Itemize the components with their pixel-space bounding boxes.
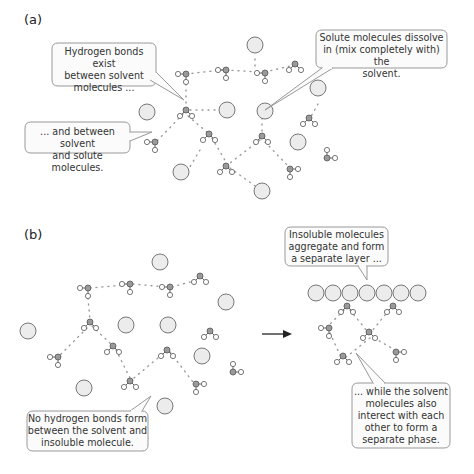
callout-line: aggregate and form bbox=[285, 241, 388, 253]
right-arrow-icon bbox=[262, 330, 292, 338]
callout-line: molecules ... bbox=[52, 82, 156, 94]
callout-line: other to form a bbox=[352, 422, 450, 434]
separated-solvent-hbonds bbox=[330, 310, 395, 358]
callout-line: insoluble molecule. bbox=[27, 437, 148, 449]
callout-solvent-phase: ... while the solvent molecules also int… bbox=[352, 386, 450, 446]
callout-no-hbond: No hydrogen bonds form between the solve… bbox=[27, 413, 148, 449]
callout-solute-dissolve: Solute molecules dissolve in (mix comple… bbox=[316, 32, 447, 80]
separated-solvent-molecules bbox=[318, 303, 406, 365]
callout-line: interect with each bbox=[352, 410, 450, 422]
callout-line: Solute molecules dissolve bbox=[316, 32, 447, 44]
callout-line: Hydrogen bonds exist bbox=[52, 46, 156, 70]
callout-hbond-solvent: Hydrogen bonds exist between solvent mol… bbox=[52, 46, 156, 94]
panel-b-label: (b) bbox=[24, 227, 42, 242]
callout-line: separate phase. bbox=[352, 434, 450, 446]
callout-line: a separate layer ... bbox=[285, 253, 388, 265]
callout-line: Insoluble molecules bbox=[285, 229, 388, 241]
panel-b-solvent-molecules bbox=[47, 273, 243, 395]
callout-line: ... while the solvent bbox=[352, 386, 450, 398]
callout-line: molecules also bbox=[352, 398, 450, 410]
callout-line: and solute molecules. bbox=[25, 150, 130, 174]
callout-insoluble-aggregate: Insoluble molecules aggregate and form a… bbox=[285, 229, 388, 265]
callout-line: No hydrogen bonds form bbox=[27, 413, 148, 425]
callout-line: between the solvent and bbox=[27, 425, 148, 437]
callout-line: ... and between solvent bbox=[25, 126, 130, 150]
callout-line: in (mix completely with) the bbox=[316, 44, 447, 68]
callout-hbond-solvent-solute: ... and between solvent and solute molec… bbox=[25, 126, 130, 174]
callout-line: solvent. bbox=[316, 68, 447, 80]
panel-a-label: (a) bbox=[24, 12, 42, 27]
callout-line: between solvent bbox=[52, 70, 156, 82]
aggregated-layer bbox=[308, 285, 426, 301]
